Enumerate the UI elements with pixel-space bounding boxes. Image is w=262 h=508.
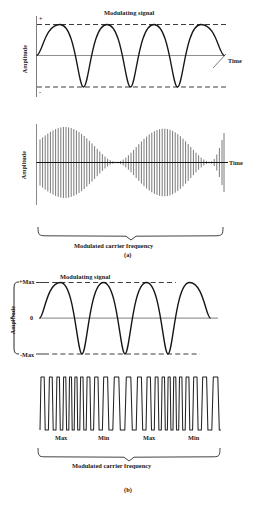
panel-b-tick-zero: 0 xyxy=(30,315,33,321)
panel-a-modulated-chart: Amplitude Time xyxy=(0,106,262,236)
panel-a-tick-minus: - xyxy=(39,89,41,95)
time-label-leader xyxy=(213,54,226,68)
panel-b: Modulating signal Amplitude +Max 0 -Max xyxy=(0,265,262,508)
panel-a-modulated-x-axis-label: Time xyxy=(229,160,243,166)
fm-carrier-wave xyxy=(40,377,221,430)
panel-b-tick-plus-max: +Max xyxy=(19,279,35,285)
panel-a-modulating-chart: Modulating signal Amplitude + - Time xyxy=(0,0,262,108)
modulating-sine-wave xyxy=(37,25,225,88)
panel-b-modulating-svg xyxy=(0,265,262,370)
panel-a-modulating-x-axis-label: Time xyxy=(228,58,242,64)
panel-a-modulated-svg xyxy=(0,106,262,236)
brace-path xyxy=(38,227,223,240)
panel-a-modulating-title: Modulating signal xyxy=(104,10,154,16)
panel-a-brace-group: Modulated carrier frequency xyxy=(0,226,262,266)
panel-a: Modulating signal Amplitude + - Time xyxy=(0,0,262,265)
fm-marker-1: Min xyxy=(98,435,109,441)
panel-b-modulating-title: Modulating signal xyxy=(60,274,110,280)
panel-a-brace-label: Modulated carrier frequency xyxy=(74,243,153,249)
panel-b-modulating-chart: Modulating signal Amplitude +Max 0 -Max xyxy=(0,265,262,370)
panel-b-caption: (b) xyxy=(124,487,132,493)
panel-a-caption: (a) xyxy=(124,252,131,258)
panel-b-brace-group: Modulated carrier frequency xyxy=(0,447,262,487)
am-carrier-lines xyxy=(40,127,224,198)
panel-a-modulated-y-axis-label: Amplitude xyxy=(21,145,27,185)
fm-marker-0: Max xyxy=(55,435,67,441)
fm-marker-3: Min xyxy=(188,435,199,441)
modulating-sine-wave xyxy=(40,283,211,355)
modulation-figure: Modulating signal Amplitude + - Time xyxy=(0,0,262,508)
panel-b-modulating-y-axis-label: Amplitude xyxy=(10,298,16,342)
panel-b-brace-label: Modulated carrier frequency xyxy=(72,463,151,469)
brace-path xyxy=(38,448,220,461)
panel-a-tick-plus: + xyxy=(39,16,42,22)
fm-marker-2: Max xyxy=(143,435,155,441)
panel-a-modulating-y-axis-label: Amplitude xyxy=(22,39,28,79)
panel-b-tick-minus-max: -Max xyxy=(20,352,34,358)
